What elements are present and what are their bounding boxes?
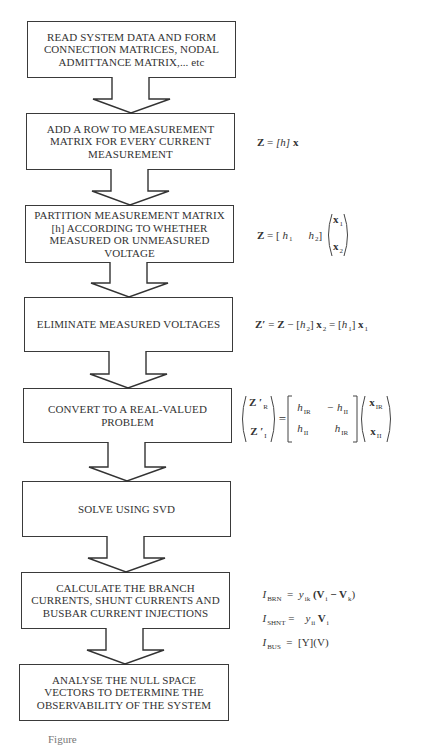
step-label: ANALYSE THE NULL SPACE VECTORS TO DETERM… [31, 674, 217, 712]
matrix-neg-h-ii: − h [327, 401, 343, 413]
down-arrow-icon [90, 77, 174, 115]
down-arrow-icon [87, 351, 171, 390]
formula-i: I [263, 612, 267, 624]
left-paren-icon [325, 213, 333, 257]
step-solve: SOLVE USING SVD [22, 481, 231, 537]
step-label: CONVERT TO A REAL-VALUED PROBLEM [42, 403, 213, 428]
step-partition: PARTITION MEASUREMENT MATRIX [h] ACCORDI… [25, 205, 234, 263]
left-paren-icon [358, 395, 366, 443]
subscript: R [263, 403, 268, 411]
down-arrow-icon [86, 442, 170, 483]
formula-bus-current: IBUS = [Y](V) [257, 624, 329, 651]
formula-x2: x [333, 240, 339, 252]
matrix-h-ii: h [297, 422, 303, 434]
right-paren-icon [386, 395, 394, 443]
formula-h1: h [342, 318, 348, 330]
subscript: 1 [365, 325, 369, 333]
subscript: II [304, 429, 309, 437]
formula-eq: = [285, 612, 305, 624]
formula-x2: x [316, 318, 322, 330]
down-arrow-icon [84, 628, 168, 666]
formula-eliminate: Z′ = Z − [h2] x2 = [h1] x1 [255, 318, 368, 333]
formula-y-matrix: [Y](V) [298, 636, 329, 648]
matrix-h-ir: h [297, 401, 303, 413]
formula-paren: ) [351, 588, 355, 600]
formula-x1: x [333, 213, 339, 225]
formula-branch-current: IBRN = yik (Vi − Vk) [257, 576, 355, 603]
formula-x: x [290, 136, 298, 148]
formula-i: I [263, 588, 267, 600]
formula-eq: = [ [326, 318, 341, 330]
formula-eq: = [281, 636, 298, 648]
left-paren-icon [239, 395, 247, 443]
right-paren-icon [343, 213, 351, 257]
formula-shunt-current: ISHNT = yii Vi [257, 600, 329, 627]
formula-h2: h [300, 318, 306, 330]
formula-minus: − [ [285, 318, 300, 330]
step-eliminate: ELIMINATE MEASURED VOLTAGES [24, 297, 233, 352]
formula-h2: h [308, 229, 314, 241]
subscript: IR [376, 403, 383, 411]
down-arrow-icon [89, 169, 173, 207]
subscript: IR [304, 408, 311, 416]
step-label: READ SYSTEM DATA AND FORM CONNECTION MAT… [38, 31, 225, 69]
subscript: II [377, 432, 382, 440]
formula-eq: = [264, 229, 276, 241]
formula-z-r: Z ′ [249, 396, 262, 408]
formula-v: V [315, 612, 326, 624]
formula-eq: = [265, 318, 277, 330]
subscript: BUS [267, 643, 281, 651]
step-label: CALCULATE THE BRANCH CURRENTS, SHUNT CUR… [25, 582, 225, 620]
step-read-system-data: READ SYSTEM DATA AND FORM CONNECTION MAT… [27, 21, 236, 78]
formula-v: − V [327, 588, 347, 600]
down-arrow-icon [88, 262, 172, 299]
formula-h: [h] [276, 136, 290, 148]
vector-x-ir: x [369, 396, 375, 408]
subscript: IR [341, 429, 348, 437]
formula-y: y [299, 588, 304, 600]
formula-i: I [263, 636, 267, 648]
right-paren-icon [270, 395, 278, 443]
formula-eq: = [282, 588, 299, 600]
formula-z-i: Z ′ [250, 425, 263, 437]
step-label: PARTITION MEASUREMENT MATRIX [h] ACCORDI… [28, 209, 230, 259]
formula-eq: = [264, 136, 276, 148]
formula-measurement: Z = [h] x [257, 136, 298, 148]
step-label: SOLVE USING SVD [72, 503, 181, 516]
step-label: ELIMINATE MEASURED VOLTAGES [31, 318, 226, 331]
vector-x-ii: x [370, 425, 376, 437]
formula-y: y [305, 612, 310, 624]
formula-partition: Z = [ h1h2] x1x2 [257, 208, 351, 262]
step-analyse: ANALYSE THE NULL SPACE VECTORS TO DETERM… [19, 664, 229, 721]
formula-eq: = [279, 411, 286, 427]
subscript: 1 [289, 235, 293, 243]
formula-h1: h [282, 229, 288, 241]
step-convert: CONVERT TO A REAL-VALUED PROBLEM [23, 388, 232, 443]
step-label: ADD A ROW TO MEASUREMENT MATRIX FOR EVER… [41, 123, 220, 161]
step-calculate: CALCULATE THE BRANCH CURRENTS, SHUNT CUR… [21, 572, 230, 629]
step-add-row: ADD A ROW TO MEASUREMENT MATRIX FOR EVER… [26, 113, 235, 170]
subscript: I [264, 432, 266, 440]
formula-z: Z [277, 318, 284, 330]
formula-z-prime: Z′ [255, 318, 265, 330]
matrix-h-ir: h [335, 422, 341, 434]
formula-x1: x [358, 318, 364, 330]
down-arrow-icon [85, 536, 169, 574]
subscript: II [343, 408, 348, 416]
figure-caption: Figure [48, 733, 77, 745]
formula-v: (V [310, 588, 324, 600]
formula-real-valued: Z ′R Z ′I = hIR − hII hII hIR xIR xII [239, 390, 394, 448]
